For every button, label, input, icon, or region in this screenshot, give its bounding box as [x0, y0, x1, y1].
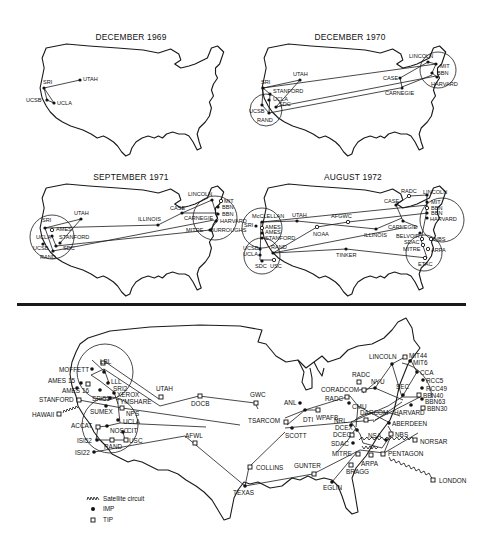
- satellite-circuit-hawaii: [63, 406, 78, 413]
- svg-text:HAWAII: HAWAII: [32, 411, 54, 418]
- svg-text:ILLINOIS: ILLINOIS: [138, 216, 161, 222]
- svg-text:RAND: RAND: [257, 117, 273, 123]
- svg-text:CARNEGIE: CARNEGIE: [385, 90, 414, 96]
- svg-text:UCLA: UCLA: [36, 234, 51, 240]
- svg-text:CIT: CIT: [127, 427, 137, 434]
- svg-text:COLLINS: COLLINS: [256, 464, 283, 471]
- svg-text:BBN63: BBN63: [425, 398, 446, 405]
- svg-text:NYU: NYU: [371, 378, 385, 385]
- svg-text:ISI52: ISI52: [77, 437, 92, 444]
- svg-text:RADC: RADC: [352, 371, 370, 378]
- svg-text:SDAC: SDAC: [331, 440, 349, 447]
- us-outline: [40, 184, 224, 296]
- svg-text:NPS: NPS: [126, 410, 139, 417]
- svg-text:BBN: BBN: [437, 70, 449, 76]
- svg-text:RAND: RAND: [104, 443, 122, 450]
- legend-label-satellite: Satellite circuit: [103, 495, 144, 502]
- svg-text:TSARCOM: TSARCOM: [248, 417, 280, 424]
- svg-text:DTI: DTI: [303, 416, 314, 423]
- panel-title: DECEMBER 1970: [314, 32, 385, 42]
- svg-text:BRAGG: BRAGG: [346, 468, 369, 475]
- svg-text:ILLINOIS: ILLINOIS: [364, 232, 387, 238]
- svg-text:BBN: BBN: [222, 204, 234, 210]
- legend-label-imp: IMP: [103, 505, 114, 512]
- svg-text:NORSAR: NORSAR: [420, 438, 448, 445]
- svg-text:LINCOLN: LINCOLN: [369, 353, 397, 360]
- svg-text:UCLA: UCLA: [243, 251, 258, 257]
- panel-september-1971: SEPTEMBER 1971 SRI AMES UCLA: [30, 172, 247, 296]
- svg-text:CASE: CASE: [170, 205, 186, 211]
- svg-text:SRI: SRI: [42, 217, 52, 223]
- svg-text:DCEC: DCEC: [333, 431, 351, 438]
- svg-text:BBN30: BBN30: [427, 405, 448, 412]
- imp-node: [52, 101, 55, 104]
- svg-text:UCLA: UCLA: [123, 418, 141, 425]
- svg-text:NBS: NBS: [395, 431, 408, 438]
- svg-text:HARVARD: HARVARD: [431, 81, 458, 87]
- svg-text:UCSB: UCSB: [249, 108, 265, 114]
- svg-text:HARVARD: HARVARD: [430, 216, 457, 222]
- svg-text:AFWL: AFWL: [185, 432, 203, 439]
- svg-text:CASE: CASE: [384, 198, 400, 204]
- svg-text:GWC: GWC: [250, 391, 266, 398]
- panel-title: SEPTEMBER 1971: [93, 172, 169, 182]
- satellite-circuit-icon: [87, 497, 99, 500]
- panel-august-1972: AUGUST 1972: [242, 172, 464, 296]
- svg-text:XEROX: XEROX: [117, 391, 140, 398]
- svg-text:SDAC: SDAC: [404, 239, 420, 245]
- svg-text:STANFORD: STANFORD: [273, 88, 303, 94]
- arpanet-growth-figure: DECEMBER 1969 SRI UTAH UCSB UCLA DECEMBE…: [0, 0, 486, 555]
- panel-title: AUGUST 1972: [324, 172, 382, 182]
- svg-text:LINCOLN: LINCOLN: [188, 191, 212, 197]
- svg-text:UCSB: UCSB: [33, 245, 49, 251]
- svg-text:SDC: SDC: [255, 263, 267, 269]
- panel-december-1970: DECEMBER 1970 SRI UTAH STANFORD: [249, 32, 458, 156]
- svg-text:AMES 16: AMES 16: [62, 387, 89, 394]
- svg-text:RCC5: RCC5: [426, 377, 444, 384]
- section-divider: [17, 303, 466, 306]
- svg-text:MITRE: MITRE: [403, 246, 421, 252]
- svg-text:ETAC: ETAC: [418, 261, 433, 267]
- svg-text:STANFORD: STANFORD: [39, 396, 74, 403]
- node-label: SRI: [43, 79, 53, 85]
- large-network-map: MOFFETT LBL AMES 15 AMES 16 LLL SRI2 XER…: [32, 318, 467, 520]
- svg-text:MITRE: MITRE: [186, 227, 204, 233]
- svg-text:SRI51: SRI51: [92, 395, 110, 402]
- node-label: UCSB: [26, 97, 42, 103]
- svg-text:PENTAGON: PENTAGON: [388, 450, 424, 457]
- tip-icon: [91, 518, 95, 522]
- svg-text:RADC: RADC: [401, 188, 417, 194]
- panel-december-1969: DECEMBER 1969 SRI UTAH UCSB UCLA: [26, 32, 224, 156]
- svg-text:NRL: NRL: [334, 417, 347, 424]
- svg-text:NSA: NSA: [368, 432, 382, 439]
- node-label: UTAH: [83, 76, 98, 82]
- svg-text:UTAH: UTAH: [74, 210, 89, 216]
- svg-text:CASE: CASE: [383, 75, 399, 81]
- svg-text:RCC49: RCC49: [426, 385, 447, 392]
- svg-text:UTAH: UTAH: [292, 212, 307, 218]
- svg-text:RAND: RAND: [271, 244, 287, 250]
- svg-text:SCOTT: SCOTT: [285, 432, 307, 439]
- svg-text:BBN: BBN: [222, 211, 234, 217]
- svg-text:LINCOLN: LINCOLN: [409, 53, 433, 59]
- svg-text:ARPA: ARPA: [431, 247, 446, 253]
- panel-title: DECEMBER 1969: [95, 32, 166, 42]
- svg-text:ANL: ANL: [284, 399, 297, 406]
- svg-text:DARCOM: DARCOM: [360, 409, 388, 416]
- svg-text:TINKER: TINKER: [336, 252, 357, 258]
- svg-text:ARPA: ARPA: [361, 460, 379, 467]
- svg-text:CARNEGIE: CARNEGIE: [388, 224, 417, 230]
- svg-text:UTAH: UTAH: [156, 385, 173, 392]
- svg-text:MIT6: MIT6: [413, 359, 428, 366]
- imp-node: [78, 78, 81, 81]
- svg-text:NBS: NBS: [434, 236, 446, 242]
- imp-node: [45, 98, 48, 101]
- legend: Satellite circuit IMP TIP: [87, 495, 144, 523]
- svg-text:TEXAS: TEXAS: [233, 489, 254, 496]
- svg-text:ABERDEEN: ABERDEEN: [392, 420, 428, 427]
- svg-text:CARNEGIE: CARNEGIE: [184, 215, 213, 221]
- svg-text:DOCB: DOCB: [191, 400, 209, 407]
- svg-text:SUMEX: SUMEX: [90, 408, 113, 415]
- svg-text:DCEX: DCEX: [335, 424, 353, 431]
- svg-text:AFGWC: AFGWC: [331, 213, 352, 219]
